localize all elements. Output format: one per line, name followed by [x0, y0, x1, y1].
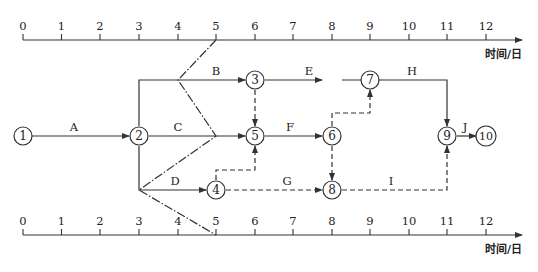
- progress-check-line: [139, 40, 216, 235]
- top-tick-label: 5: [212, 19, 219, 33]
- label-B: B: [212, 64, 220, 78]
- top-tick-label: 7: [289, 19, 296, 33]
- top-tick-label: 1: [58, 19, 65, 33]
- svg-text:10: 10: [479, 130, 493, 143]
- top-tick-label: 6: [251, 19, 258, 33]
- top-tick-label: 8: [328, 19, 335, 33]
- arrow-B: [139, 80, 245, 126]
- bottom-tick-label: 4: [174, 214, 181, 228]
- bottom-tick-label: 11: [440, 214, 455, 228]
- top-tick-label: 10: [402, 19, 417, 33]
- label-E: E: [305, 64, 313, 78]
- node-8: 8: [323, 181, 341, 199]
- top-tick-label: 12: [479, 19, 494, 33]
- node-6: 6: [323, 127, 341, 145]
- top-tick-label: 3: [135, 19, 142, 33]
- bottom-tick-label: 2: [96, 214, 103, 228]
- label-I: I: [389, 174, 394, 188]
- bottom-tick-label: 6: [251, 214, 258, 228]
- label-C: C: [174, 120, 183, 134]
- node-3: 3: [246, 71, 264, 89]
- top-axis-ticks: [23, 34, 486, 40]
- bottom-axis-ticks: [23, 229, 486, 235]
- node-4: 4: [207, 181, 225, 199]
- bottom-time-axis: 0 1 2 3 4 5 6 7 8 9 10 11 12 时间/日: [19, 214, 522, 256]
- label-F: F: [286, 120, 294, 134]
- arrow-H: [342, 80, 447, 126]
- node-7: 7: [361, 71, 379, 89]
- svg-text:4: 4: [212, 183, 220, 197]
- label-G: G: [282, 174, 291, 188]
- svg-text:1: 1: [19, 129, 27, 143]
- node-10: 10: [476, 126, 496, 146]
- top-tick-label: 9: [366, 19, 373, 33]
- dummy-6-7: [332, 90, 370, 126]
- svg-text:7: 7: [366, 73, 374, 87]
- top-tick-label: 2: [96, 19, 103, 33]
- bottom-tick-label: 0: [19, 214, 26, 228]
- label-D: D: [170, 174, 179, 188]
- bottom-tick-label: 7: [289, 214, 296, 228]
- label-H: H: [407, 64, 417, 78]
- bottom-tick-label: 12: [479, 214, 494, 228]
- svg-text:6: 6: [328, 129, 336, 143]
- node-2: 2: [130, 127, 148, 145]
- activity-labels: A B C D E F G H I J: [69, 64, 468, 188]
- top-tick-label: 11: [440, 19, 455, 33]
- dummy-4-5: [216, 146, 255, 180]
- node-5: 5: [246, 127, 264, 145]
- label-J: J: [462, 120, 468, 134]
- svg-text:5: 5: [251, 129, 259, 143]
- bottom-tick-label: 3: [135, 214, 142, 228]
- bottom-tick-label: 8: [328, 214, 335, 228]
- svg-text:9: 9: [443, 129, 451, 143]
- bottom-tick-label: 1: [58, 214, 65, 228]
- bottom-tick-label: 9: [366, 214, 373, 228]
- top-tick-label: 4: [174, 19, 181, 33]
- bottom-tick-label: 5: [212, 214, 219, 228]
- top-time-axis: 0 1 2 3 4 5 6 7 8 9 10 11 12 时间/日: [19, 19, 522, 61]
- node-1: 1: [14, 127, 32, 145]
- svg-text:3: 3: [251, 73, 259, 87]
- top-tick-label: 0: [19, 19, 26, 33]
- svg-text:2: 2: [135, 129, 143, 143]
- bottom-axis-title: 时间/日: [485, 242, 522, 256]
- bottom-tick-label: 10: [402, 214, 417, 228]
- arrow-I: [342, 146, 447, 190]
- network-diagram: 0 1 2 3 4 5 6 7 8 9 10 11 12 时间/日: [0, 0, 538, 272]
- node-9: 9: [438, 127, 456, 145]
- top-axis-title: 时间/日: [485, 47, 522, 61]
- label-A: A: [69, 120, 79, 134]
- svg-text:8: 8: [328, 183, 336, 197]
